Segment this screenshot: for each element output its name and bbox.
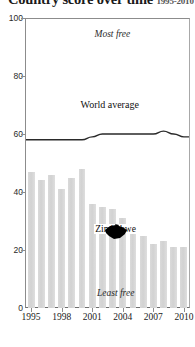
y-tick-label-40: 40 — [0, 188, 23, 196]
zimbabwe-map-icon — [103, 223, 129, 241]
y-tick-label-20: 20 — [0, 246, 23, 254]
y-tick-label-100: 100 — [0, 14, 23, 22]
x-tick-label-1998: 1998 — [52, 312, 71, 322]
x-tick-label-2004: 2004 — [113, 312, 132, 322]
bar-2000 — [79, 169, 86, 308]
x-tick-label-2001: 2001 — [83, 312, 102, 322]
chart-figure: Country score over time 1995-2010 100806… — [0, 0, 195, 347]
bar-2001 — [89, 204, 96, 308]
x-tick-mark-1998 — [62, 308, 63, 312]
x-tick-mark-2010 — [184, 308, 185, 312]
x-tick-label-2007: 2007 — [144, 312, 163, 322]
bar-1997 — [48, 175, 55, 308]
x-tick-label-1995: 1995 — [22, 312, 41, 322]
x-tick-mark-2004 — [123, 308, 124, 312]
x-tick-mark-1995 — [31, 308, 32, 312]
x-tick-mark-2007 — [153, 308, 154, 312]
x-tick-label-2010: 2010 — [174, 312, 193, 322]
bar-2006 — [140, 236, 147, 309]
bar-1999 — [68, 178, 75, 309]
chart-title: Country score over time 1995-2010 — [8, 0, 195, 8]
y-tick-label-60: 60 — [0, 130, 23, 138]
bar-2009 — [170, 247, 177, 308]
annotation-least-free: Least free — [97, 288, 134, 298]
y-tick-label-80: 80 — [0, 72, 23, 80]
annotation-world-average: World average — [79, 99, 141, 110]
x-tick-mark-2001 — [92, 308, 93, 312]
annotation-most-free: Most free — [95, 29, 131, 39]
bar-1996 — [38, 180, 45, 308]
bar-2007 — [150, 244, 157, 308]
y-tick-label-0: 0 — [0, 304, 23, 312]
chart-title-years: 1995-2010 — [157, 0, 194, 6]
bar-1998 — [58, 189, 65, 308]
chart-title-text: Country score over time — [8, 0, 153, 7]
bar-1995 — [28, 172, 35, 308]
bar-2010 — [180, 247, 187, 308]
bar-series-zimbabwe — [26, 19, 189, 308]
bar-2008 — [160, 241, 167, 308]
